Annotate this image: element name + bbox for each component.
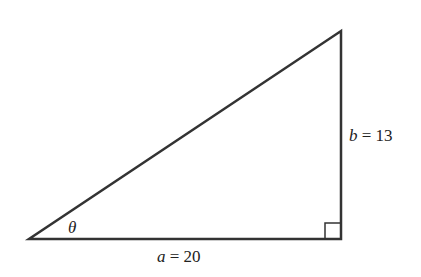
triangle-diagram: θ a = 20 b = 13 <box>0 0 421 277</box>
angle-theta-label: θ <box>68 218 76 237</box>
base-label: a = 20 <box>157 247 201 266</box>
triangle-shape <box>29 31 341 239</box>
height-label: b = 13 <box>349 126 393 145</box>
right-angle-marker <box>325 223 341 239</box>
